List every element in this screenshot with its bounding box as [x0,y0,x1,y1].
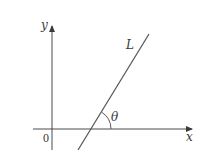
angle-label: θ [111,110,119,124]
line-label: L [125,38,134,52]
y-axis-label: y [40,18,48,32]
line-l [78,34,149,150]
angle-arc [101,112,111,129]
diagram-canvas: y x 0 L θ [0,0,205,160]
x-axis-label: x [186,130,193,144]
origin-label: 0 [43,131,49,145]
